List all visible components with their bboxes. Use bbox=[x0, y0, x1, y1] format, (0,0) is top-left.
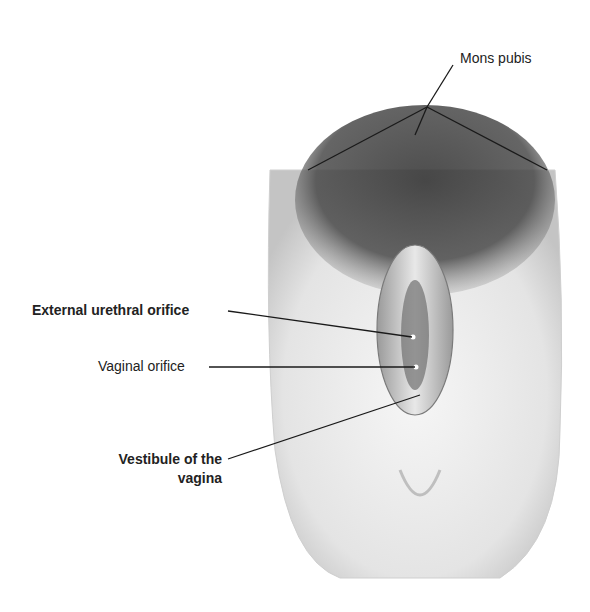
label-mons-pubis: Mons pubis bbox=[460, 50, 532, 66]
label-vestibule-of-the-vagina: Vestibule of the vagina bbox=[90, 450, 222, 488]
leader-mons-pubis bbox=[427, 65, 453, 107]
label-vestibule-line1: Vestibule of the bbox=[90, 450, 222, 469]
label-vaginal-orifice: Vaginal orifice bbox=[98, 358, 185, 374]
label-vestibule-line2: vagina bbox=[90, 469, 222, 488]
label-external-urethral-orifice: External urethral orifice bbox=[32, 302, 189, 318]
